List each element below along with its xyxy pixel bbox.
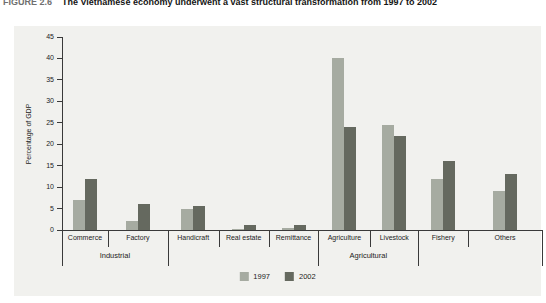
y-tick-label: 0 — [14, 226, 54, 234]
category-label-5: Agriculture — [318, 230, 370, 247]
group-bracket-right — [542, 247, 543, 266]
category-label-0: Commerce — [62, 230, 108, 247]
category-label-4: Remittance — [269, 230, 319, 247]
page: FIGURE 2.6The Vietnamese economy underwe… — [0, 0, 546, 303]
category-label-6: Livestock — [370, 230, 418, 247]
y-tick-label: 30 — [14, 97, 54, 105]
legend-item-2002: 2002 — [285, 272, 316, 281]
y-tick-label: 5 — [14, 205, 54, 213]
y-tick-label: 35 — [14, 76, 54, 84]
bar-livestock-1997 — [382, 125, 394, 230]
bar-livestock-2002 — [394, 136, 406, 230]
chart-panel: Percentage of GDP 19972002 0510152025303… — [14, 26, 541, 296]
category-separator — [542, 230, 543, 247]
y-tick-label: 45 — [14, 33, 54, 41]
figure-number: FIGURE 2.6 — [3, 0, 52, 7]
bar-others-2002 — [505, 174, 517, 230]
category-label-2: Handicraft — [168, 230, 219, 247]
bar-handicraft-1997 — [181, 209, 193, 230]
group-label-0: Industrial — [62, 247, 168, 266]
legend-label-2002: 2002 — [299, 272, 316, 281]
legend-swatch-1997 — [239, 272, 248, 281]
y-tick-label: 10 — [14, 183, 54, 191]
y-tick-label: 20 — [14, 140, 54, 148]
y-axis-line — [62, 37, 63, 230]
legend: 19972002 — [239, 272, 315, 281]
bar-fishery-1997 — [431, 179, 443, 230]
legend-swatch-2002 — [285, 272, 294, 281]
bar-factory-1997 — [126, 221, 138, 230]
bar-commerce-1997 — [73, 200, 85, 230]
y-tick-label: 40 — [14, 54, 54, 62]
bar-others-1997 — [493, 191, 505, 230]
group-label-2: Agricultural — [318, 247, 418, 266]
category-label-7: Fishery — [418, 230, 468, 247]
bar-handicraft-2002 — [193, 206, 205, 230]
category-label-1: Factory — [108, 230, 168, 247]
figure-caption: The Vietnamese economy underwent a vast … — [62, 0, 437, 7]
y-tick-label: 25 — [14, 119, 54, 127]
bar-agriculture-2002 — [344, 127, 356, 230]
y-tick-label: 15 — [14, 162, 54, 170]
category-label-8: Others — [468, 230, 542, 247]
group-bracket-left — [418, 247, 419, 266]
bar-factory-2002 — [138, 204, 150, 230]
legend-item-1997: 1997 — [239, 272, 270, 281]
bar-commerce-2002 — [85, 179, 97, 230]
bar-agriculture-1997 — [332, 58, 344, 230]
group-bracket-left — [168, 247, 169, 266]
category-label-3: Real estate — [219, 230, 269, 247]
figure-title: FIGURE 2.6The Vietnamese economy underwe… — [3, 0, 437, 7]
legend-label-1997: 1997 — [253, 272, 270, 281]
bar-fishery-2002 — [443, 161, 455, 230]
